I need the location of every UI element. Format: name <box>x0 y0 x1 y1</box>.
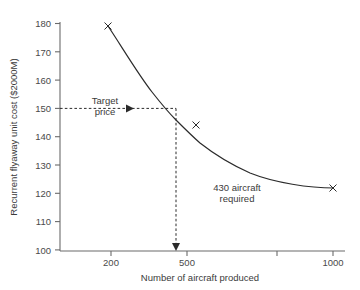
data-point-marker <box>105 23 112 30</box>
chart-figure: 180 170 160 150 140 130 120 110 100 200 … <box>0 0 360 290</box>
x-axis-title: Number of aircraft produced <box>141 272 259 283</box>
data-curve <box>108 26 334 188</box>
y-axis-tick-labels: 180 170 160 150 140 130 120 110 100 <box>35 18 51 255</box>
y-tick-label: 170 <box>35 47 51 58</box>
target-price-annotation-line-1: Target <box>92 95 119 106</box>
y-tick-label: 160 <box>35 75 51 86</box>
x-tick-label: 500 <box>179 257 195 268</box>
x-tick-label: 200 <box>103 257 119 268</box>
required-quantity-annotation-line-2: required <box>220 193 255 204</box>
data-point-marker <box>193 122 200 129</box>
y-tick-label: 120 <box>35 188 51 199</box>
y-tick-label: 130 <box>35 160 51 171</box>
y-tick-label: 150 <box>35 103 51 114</box>
x-axis-ticks <box>111 251 333 256</box>
y-tick-label: 100 <box>35 245 51 256</box>
y-axis-title: Recurrent flyaway unit cost ($2000M) <box>8 58 19 215</box>
x-axis-tick-labels: 200 500 1000 <box>103 257 344 268</box>
target-price-annotation-line-2: price <box>95 106 116 117</box>
x-tick-label: 1000 <box>322 257 343 268</box>
y-tick-label: 140 <box>35 131 51 142</box>
y-tick-label: 180 <box>35 18 51 29</box>
required-quantity-arrowhead <box>172 243 180 251</box>
data-point-markers <box>105 23 337 192</box>
y-axis-ticks <box>55 24 60 250</box>
target-price-arrowhead <box>126 104 134 112</box>
required-quantity-annotation-line-1: 430 aircraft <box>213 182 261 193</box>
required-quantity-annotation: 430 aircraft required <box>213 182 261 204</box>
target-price-annotation: Target price <box>92 95 119 117</box>
y-tick-label: 110 <box>36 216 51 227</box>
chart-canvas: 180 170 160 150 140 130 120 110 100 200 … <box>0 0 360 290</box>
